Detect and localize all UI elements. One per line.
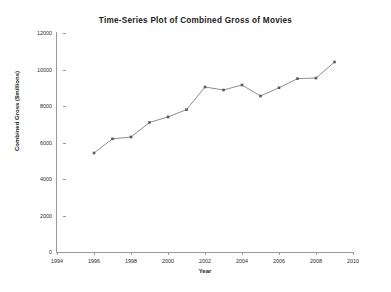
y-tick-mark	[63, 70, 66, 71]
x-tick-mark	[205, 252, 206, 255]
data-point-marker	[93, 152, 96, 155]
data-point-marker	[278, 86, 281, 89]
x-tick-label: 2008	[298, 258, 334, 264]
data-point-marker	[111, 138, 114, 141]
x-tick-mark	[168, 252, 169, 255]
x-tick-label: 2010	[335, 258, 371, 264]
data-point-marker	[148, 121, 151, 124]
y-tick-mark	[63, 106, 66, 107]
data-point-marker	[333, 61, 336, 64]
data-point-marker	[315, 77, 318, 80]
y-axis-line	[56, 32, 57, 253]
chart-title: Time-Series Plot of Combined Gross of Mo…	[0, 16, 391, 25]
data-point-marker	[222, 89, 225, 92]
x-tick-mark	[242, 252, 243, 255]
data-point-marker	[296, 77, 299, 80]
x-tick-mark	[57, 252, 58, 255]
x-tick-mark	[131, 252, 132, 255]
x-tick-label: 1996	[76, 258, 112, 264]
data-point-marker	[167, 116, 170, 119]
data-point-marker	[204, 86, 207, 89]
series-line	[94, 62, 335, 153]
y-tick-label: 4000	[12, 176, 52, 182]
x-tick-label: 2002	[187, 258, 223, 264]
x-tick-label: 1998	[113, 258, 149, 264]
x-tick-mark	[94, 252, 95, 255]
data-point-marker	[185, 108, 188, 111]
data-point-marker	[130, 136, 133, 139]
y-tick-label: 2000	[12, 213, 52, 219]
x-tick-label: 1994	[39, 258, 75, 264]
x-tick-mark	[279, 252, 280, 255]
x-axis-title: Year	[56, 268, 354, 274]
y-tick-mark	[63, 143, 66, 144]
x-tick-label: 2004	[224, 258, 260, 264]
y-tick-mark	[63, 33, 66, 34]
x-tick-label: 2000	[150, 258, 186, 264]
x-tick-label: 2006	[261, 258, 297, 264]
x-tick-mark	[316, 252, 317, 255]
data-point-marker	[259, 95, 262, 98]
y-tick-label: 12000	[12, 30, 52, 36]
y-tick-mark	[63, 179, 66, 180]
y-axis-title: Combined Gross ($millions)	[14, 56, 20, 166]
y-tick-mark	[63, 216, 66, 217]
time-series-chart: Time-Series Plot of Combined Gross of Mo…	[0, 0, 391, 292]
data-point-marker	[241, 84, 244, 87]
data-series-layer	[0, 0, 391, 292]
x-tick-mark	[353, 252, 354, 255]
